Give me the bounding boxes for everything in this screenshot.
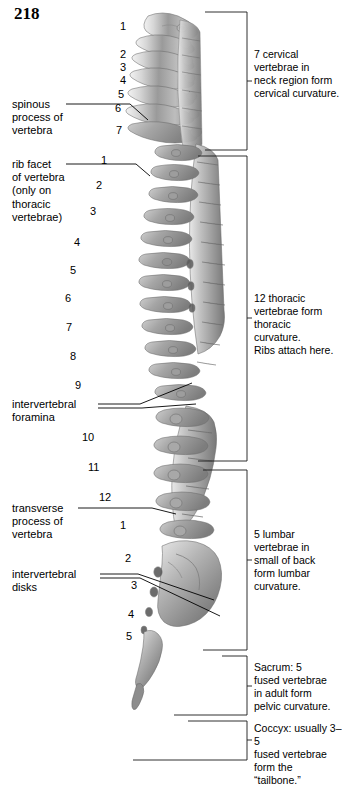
vertebra-number-thoracic-8: 8 xyxy=(70,351,76,362)
label-intervertebral-disks: intervertebral disks xyxy=(12,568,104,594)
vertebra-number-cervical-3: 3 xyxy=(120,62,126,73)
vertebra-number-thoracic-7: 7 xyxy=(66,322,72,333)
vertebra-number-thoracic-5: 5 xyxy=(70,265,76,276)
label-intervertebral-foramina: intervertebral foramina xyxy=(12,398,104,424)
label-cervical-region: 7 cervical vertebrae in neck region form… xyxy=(254,48,340,100)
vertebra-number-thoracic-1: 1 xyxy=(101,155,107,166)
label-lumbar-region: 5 lumbar vertebrae in small of back form… xyxy=(254,528,340,593)
label-sacrum-region: Sacrum: 5 fused vertebrae in adult form … xyxy=(254,661,340,713)
vertebra-number-thoracic-2: 2 xyxy=(96,180,102,191)
vertebra-number-lumbar-5: 5 xyxy=(126,631,132,642)
label-spinous-process: spinous process of vertebra xyxy=(12,98,90,138)
page-number: 218 xyxy=(14,4,40,24)
vertebra-number-cervical-1: 1 xyxy=(120,21,126,32)
vertebra-number-thoracic-10: 10 xyxy=(82,432,94,443)
vertebra-number-thoracic-4: 4 xyxy=(74,237,80,248)
vertebra-number-thoracic-12: 12 xyxy=(99,492,111,503)
vertebra-number-cervical-6: 6 xyxy=(115,103,121,114)
vertebra-number-cervical-4: 4 xyxy=(120,75,126,86)
vertebra-number-thoracic-11: 11 xyxy=(88,462,99,473)
vertebra-number-cervical-7: 7 xyxy=(116,125,122,136)
label-transverse-process: transverse process of vertebra xyxy=(12,502,92,542)
vertebra-number-thoracic-6: 6 xyxy=(65,293,71,304)
vertebra-number-cervical-5: 5 xyxy=(118,89,124,100)
vertebra-number-thoracic-9: 9 xyxy=(75,380,81,391)
spine-illustration xyxy=(118,6,228,758)
vertebra-number-cervical-2: 2 xyxy=(120,49,126,60)
label-thoracic-region: 12 thoracic vertebrae form thoracic curv… xyxy=(254,292,340,357)
vertebra-number-lumbar-4: 4 xyxy=(128,609,134,620)
vertebra-number-lumbar-3: 3 xyxy=(131,580,137,591)
vertebra-number-lumbar-2: 2 xyxy=(125,553,131,564)
vertebra-number-lumbar-1: 1 xyxy=(120,520,126,531)
label-coccyx-region: Coccyx: usually 3–5 fused vertebrae form… xyxy=(254,722,342,787)
label-rib-facet: rib facet of vertebra (only on thoracic … xyxy=(12,158,92,224)
